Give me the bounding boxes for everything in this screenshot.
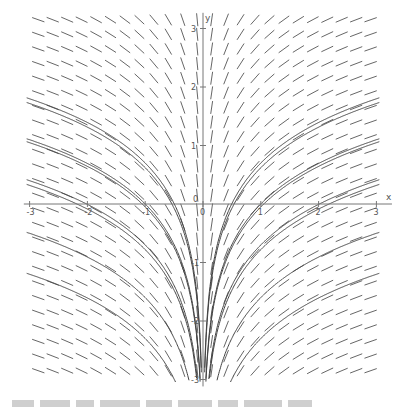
slope-segment bbox=[211, 13, 213, 26]
x-axis-label: x bbox=[386, 192, 392, 202]
slope-segment bbox=[90, 46, 101, 52]
slope-segment bbox=[105, 148, 116, 155]
slope-segment bbox=[279, 250, 290, 258]
slope-segment bbox=[32, 295, 44, 299]
solution-curve bbox=[205, 103, 380, 373]
slope-segment bbox=[224, 204, 229, 216]
slope-segment bbox=[150, 366, 158, 376]
slope-segment bbox=[32, 222, 44, 226]
truncated-caption bbox=[12, 400, 342, 407]
slope-segment bbox=[135, 30, 145, 39]
slope-segment bbox=[105, 250, 116, 257]
slope-segment bbox=[181, 321, 185, 333]
slope-segment bbox=[251, 88, 260, 98]
solution-curve bbox=[209, 184, 379, 378]
slope-segment bbox=[32, 61, 44, 65]
slope-segment bbox=[105, 16, 116, 23]
slope-segment bbox=[150, 88, 158, 98]
slope-segment bbox=[364, 325, 376, 329]
slope-segment bbox=[32, 91, 44, 95]
y-tick-label: 3 bbox=[191, 25, 196, 34]
slope-segment bbox=[181, 72, 185, 84]
slope-segment bbox=[293, 367, 304, 374]
slope-segment bbox=[336, 163, 348, 168]
slope-segment bbox=[181, 28, 185, 40]
slope-segment bbox=[181, 204, 185, 216]
slope-segment bbox=[293, 192, 304, 199]
slope-segment bbox=[150, 132, 158, 142]
slope-segment bbox=[90, 31, 101, 37]
slope-segment bbox=[61, 324, 73, 329]
slope-segment bbox=[224, 116, 229, 128]
slope-segment bbox=[279, 60, 290, 68]
slope-segment bbox=[237, 131, 244, 142]
slope-segment bbox=[150, 190, 158, 200]
slope-segment bbox=[321, 368, 333, 374]
slope-segment bbox=[279, 323, 290, 331]
slope-segment bbox=[90, 353, 101, 359]
slope-segment bbox=[165, 336, 172, 347]
slope-segment bbox=[105, 104, 116, 111]
slope-segment bbox=[165, 58, 172, 69]
slope-segment bbox=[251, 322, 260, 332]
slope-segment bbox=[135, 45, 145, 54]
slope-segment bbox=[307, 280, 318, 286]
slope-segment bbox=[32, 339, 44, 343]
slope-segment bbox=[224, 72, 229, 84]
slope-segment bbox=[120, 352, 130, 360]
slope-segment bbox=[307, 178, 318, 184]
slope-segment bbox=[32, 120, 44, 124]
slope-segment bbox=[251, 15, 260, 25]
slope-segment bbox=[105, 338, 116, 345]
slope-segment bbox=[105, 31, 116, 38]
slope-segment bbox=[307, 368, 318, 374]
slope-segment bbox=[265, 264, 275, 273]
slope-segment bbox=[61, 149, 73, 154]
slope-segment bbox=[265, 220, 275, 229]
slope-segment bbox=[32, 310, 44, 314]
slope-segment bbox=[321, 17, 333, 23]
slope-segment bbox=[364, 252, 376, 256]
slope-segment bbox=[90, 119, 101, 125]
slope-segment bbox=[293, 236, 304, 243]
slope-segment bbox=[237, 44, 244, 55]
slope-segment bbox=[293, 221, 304, 228]
slope-segment bbox=[279, 74, 290, 82]
slope-segment bbox=[120, 250, 130, 258]
slope-segment bbox=[105, 309, 116, 316]
axes: -3-2-10123-3-2-11230 x y bbox=[24, 13, 392, 387]
slope-segment bbox=[265, 89, 275, 98]
y-tick-label: -2 bbox=[191, 317, 199, 326]
slope-segment bbox=[47, 76, 59, 81]
slope-segment bbox=[211, 189, 213, 202]
slope-segment bbox=[307, 221, 318, 227]
slope-segment bbox=[135, 88, 145, 97]
x-tick-label: -2 bbox=[84, 208, 92, 217]
slope-segment bbox=[211, 28, 213, 41]
slope-segment bbox=[350, 208, 362, 213]
slope-segment bbox=[224, 175, 229, 187]
slope-segment bbox=[90, 90, 101, 96]
slope-segment bbox=[350, 17, 362, 22]
solution-curve bbox=[27, 232, 189, 380]
slope-segment bbox=[251, 234, 260, 244]
slope-segment bbox=[76, 222, 88, 228]
slope-segment bbox=[150, 44, 158, 54]
slope-segment bbox=[279, 89, 290, 97]
slope-segment bbox=[279, 367, 290, 375]
slope-segment bbox=[105, 89, 116, 96]
slope-segment bbox=[211, 233, 213, 246]
slope-segment bbox=[211, 160, 213, 173]
slope-segment bbox=[90, 294, 101, 300]
slope-segment bbox=[150, 102, 158, 112]
slope-segment bbox=[197, 116, 198, 129]
slope-segment bbox=[165, 365, 172, 376]
slope-segment bbox=[61, 32, 73, 37]
slope-segment bbox=[165, 204, 172, 215]
slope-segment bbox=[47, 120, 59, 125]
slope-segment bbox=[364, 339, 376, 343]
slope-segment bbox=[364, 222, 376, 226]
slope-segment bbox=[350, 368, 362, 373]
slope-segment bbox=[32, 164, 44, 168]
slope-segment bbox=[265, 249, 275, 258]
